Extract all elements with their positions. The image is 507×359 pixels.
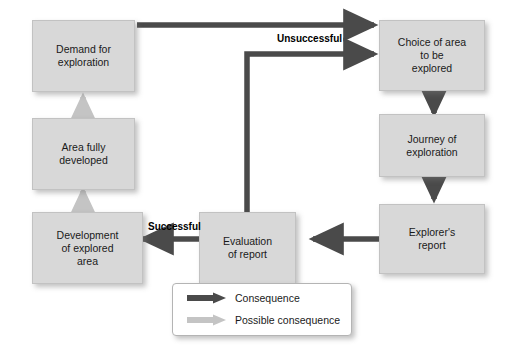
legend-item-possible-consequence: Possible consequence bbox=[185, 313, 340, 327]
node-label-line3: explored bbox=[394, 62, 470, 75]
node-label-line1: Area fully bbox=[55, 141, 111, 154]
legend-box: Consequence Possible consequence bbox=[172, 283, 352, 336]
edge-label-unsuccessful: Unsuccessful bbox=[277, 33, 342, 44]
node-label-line2: of explored bbox=[53, 242, 123, 255]
node-demand-for-exploration[interactable]: Demand for exploration bbox=[32, 20, 135, 92]
node-label-line2: to be bbox=[394, 49, 470, 62]
node-label-line2: report bbox=[405, 239, 459, 252]
edge-label-successful: Successful bbox=[148, 221, 201, 232]
flowchart-diagram: Demand for exploration Area fully develo… bbox=[0, 0, 507, 359]
legend-item-consequence: Consequence bbox=[185, 291, 300, 305]
node-label-line1: Development bbox=[53, 229, 123, 242]
legend-label: Possible consequence bbox=[235, 314, 340, 326]
node-label-line1: Evaluation bbox=[219, 235, 276, 248]
node-choice-of-area-to-be-explored[interactable]: Choice of area to be explored bbox=[379, 20, 485, 91]
light-arrow-icon bbox=[185, 313, 227, 327]
node-label-line1: Choice of area bbox=[394, 36, 470, 49]
node-label-line2: exploration bbox=[52, 56, 115, 69]
node-evaluation-of-report[interactable]: Evaluation of report bbox=[199, 212, 296, 284]
node-development-of-explored-area[interactable]: Development of explored area bbox=[32, 212, 143, 284]
node-area-fully-developed[interactable]: Area fully developed bbox=[32, 118, 135, 190]
node-label-line1: Journey of bbox=[402, 133, 461, 146]
node-label-line2: exploration bbox=[402, 146, 461, 159]
node-label-line1: Demand for bbox=[52, 43, 115, 56]
node-journey-of-exploration[interactable]: Journey of exploration bbox=[379, 114, 485, 177]
node-label-line1: Explorer's bbox=[405, 226, 459, 239]
node-label-line2: developed bbox=[55, 154, 111, 167]
dark-arrow-icon bbox=[185, 291, 227, 305]
node-label-line2: of report bbox=[219, 248, 276, 261]
arrow-evaluation-to-choice-unsuccessful bbox=[247, 54, 374, 213]
node-explorers-report[interactable]: Explorer's report bbox=[379, 204, 485, 274]
node-label-line3: area bbox=[53, 255, 123, 268]
legend-label: Consequence bbox=[235, 292, 300, 304]
